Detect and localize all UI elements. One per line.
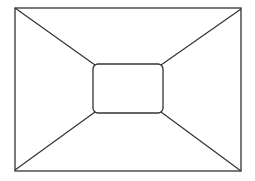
connector-bottom-left	[15, 112, 95, 170]
connector-top-right	[161, 9, 241, 65]
perspective-diagram	[0, 0, 255, 181]
connector-top-left	[15, 8, 95, 65]
inner-rounded-rectangle	[93, 64, 163, 113]
connector-bottom-right	[161, 112, 241, 171]
